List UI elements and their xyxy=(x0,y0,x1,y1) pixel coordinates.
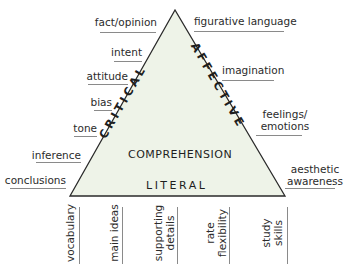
left-label-rule xyxy=(36,162,81,163)
left-label-rule xyxy=(10,188,66,189)
right-label-line: aesthetic xyxy=(284,163,346,175)
bottom-label-line: vocabulary xyxy=(64,204,76,262)
right-label-line: awareness xyxy=(284,175,346,187)
left-label-rule xyxy=(100,32,156,33)
left-label-rule xyxy=(88,84,128,85)
right-label-line: feelings/ xyxy=(254,108,316,120)
left-label-rule xyxy=(94,110,112,111)
bottom-label-line: rate xyxy=(204,204,216,262)
left-label-attitude: attitude xyxy=(87,70,128,82)
right-label-figurative-language: figurative language xyxy=(194,15,297,27)
left-label-rule xyxy=(114,61,142,62)
left-label-conclusions: conclusions xyxy=(5,174,66,186)
left-label-intent: intent xyxy=(111,46,142,58)
right-label-rule xyxy=(285,188,335,189)
right-label-line: emotions xyxy=(254,120,316,132)
bottom-label-rule xyxy=(287,207,288,264)
left-label-fact-opinion: fact/opinion xyxy=(95,16,157,28)
bottom-label-line: supporting xyxy=(152,204,164,262)
left-label-rule xyxy=(74,136,97,137)
bottom-label-rate-flexibility: rate flexibility xyxy=(204,204,228,262)
bottom-label-vocabulary: vocabulary xyxy=(64,204,76,262)
bottom-label-line: study xyxy=(260,204,272,262)
bottom-label-rule xyxy=(122,207,123,264)
right-label-feelings-emotions: feelings/ emotions xyxy=(254,108,316,132)
left-label-tone: tone xyxy=(73,122,97,134)
bottom-label-line: main ideas xyxy=(108,204,120,262)
bottom-label-main-ideas: main ideas xyxy=(108,204,120,262)
bottom-label-line: flexibility xyxy=(216,204,228,262)
bottom-label-rule xyxy=(177,207,178,264)
right-label-imagination: imagination xyxy=(222,64,284,76)
left-label-bias: bias xyxy=(91,96,113,108)
left-label-inference: inference xyxy=(32,149,81,161)
comprehension-label: COMPREHENSION xyxy=(128,148,232,161)
literal-label: LITERAL xyxy=(146,179,207,192)
bottom-label-supporting-details: supporting details xyxy=(152,204,176,262)
comprehension-triangle-diagram: COMPREHENSION LITERAL CRITICAL AFFECTIVE… xyxy=(0,0,346,273)
right-label-rule xyxy=(256,135,302,136)
bottom-label-rule xyxy=(79,207,80,264)
bottom-label-line: skills xyxy=(272,204,284,262)
right-label-aesthetic-awareness: aesthetic awareness xyxy=(284,163,346,187)
bottom-label-rule xyxy=(229,207,230,264)
right-label-rule xyxy=(222,80,274,81)
bottom-label-line: details xyxy=(164,204,176,262)
right-label-rule xyxy=(194,31,284,32)
bottom-label-study-skills: study skills xyxy=(260,204,284,262)
